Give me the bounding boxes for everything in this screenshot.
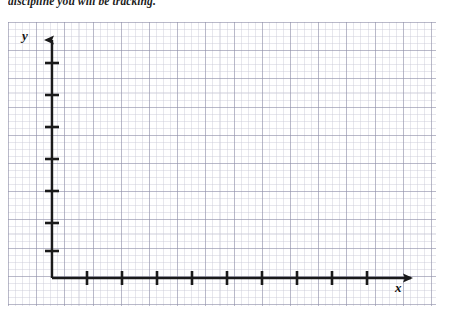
y-axis-label: y — [22, 28, 28, 44]
x-axis-label: x — [395, 280, 402, 296]
coordinate-axes — [0, 0, 451, 318]
worksheet-canvas: discipline you will be tracking. — [0, 0, 451, 318]
